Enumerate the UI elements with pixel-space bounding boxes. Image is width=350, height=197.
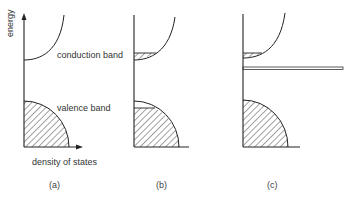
panel-b-caption: (b) <box>156 181 167 190</box>
impurity-level <box>243 67 343 70</box>
conduction-band-curve <box>243 13 285 58</box>
valence-band-fill <box>243 100 288 147</box>
valence-band-fill <box>134 108 179 147</box>
energy-axis-label: energy <box>6 9 15 37</box>
dos-axis-arrow-icon <box>76 145 83 150</box>
panel-a-caption: (a) <box>49 181 60 190</box>
energy-axis-arrow-icon <box>22 13 27 20</box>
panel-c <box>243 13 343 147</box>
panel-a <box>22 13 84 150</box>
valence-band-label: valence band <box>57 104 111 113</box>
panel-b <box>134 15 189 147</box>
dos-axis-label: density of states <box>32 158 97 167</box>
band-diagram <box>0 0 350 197</box>
conduction-band-label: conduction band <box>57 51 123 60</box>
panel-c-caption: (c) <box>267 181 278 190</box>
